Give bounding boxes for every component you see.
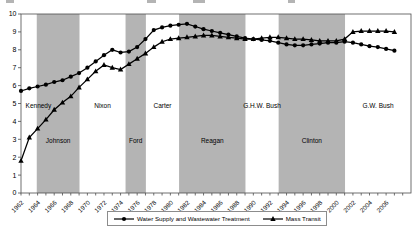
legend-label-water: Water Supply and Wastewater Treatment — [137, 215, 250, 222]
president-label-clinton: Clinton — [302, 137, 323, 144]
circle-marker — [168, 24, 172, 28]
circle-marker — [160, 25, 164, 29]
circle-marker — [309, 42, 313, 46]
circle-marker — [19, 89, 23, 93]
circle-marker — [135, 45, 139, 49]
triangle-marker — [151, 44, 156, 49]
term-band-reagan — [179, 14, 245, 193]
president-label-kennedy: Kennedy — [26, 102, 52, 110]
legend-item-water: Water Supply and Wastewater Treatment — [113, 215, 250, 223]
circle-marker — [376, 45, 380, 49]
y-tick-label: 2 — [13, 154, 17, 161]
circle-marker — [301, 43, 305, 47]
triangle-marker — [101, 62, 106, 67]
y-tick-label: 5 — [13, 100, 17, 107]
legend-label-mass-transit: Mass Transit — [286, 215, 321, 222]
x-tick-label: 1972 — [93, 198, 108, 213]
x-tick-label: 2006 — [375, 198, 390, 213]
x-tick-label: 2002 — [342, 198, 357, 213]
y-tick-label: 4 — [13, 118, 17, 125]
line-chart: 0123456789101962196419661968197019721974… — [0, 0, 415, 231]
circle-marker — [85, 66, 89, 70]
president-label-g-h-w-bush: G.H.W. Bush — [243, 102, 281, 109]
circle-marker — [384, 47, 388, 51]
x-tick-label: 1970 — [76, 198, 91, 213]
circle-marker — [69, 75, 73, 79]
circle-marker — [110, 48, 114, 52]
y-tick-label: 1 — [13, 172, 17, 179]
y-tick-label: 3 — [13, 136, 17, 143]
circle-marker — [293, 43, 297, 47]
president-label-nixon: Nixon — [94, 102, 111, 109]
circle-marker — [127, 49, 131, 53]
water-supply-series-marker-icon — [113, 215, 135, 223]
x-tick-label: 1962 — [10, 198, 25, 213]
circle-marker — [77, 71, 81, 75]
circle-marker — [177, 23, 181, 27]
circle-marker — [152, 28, 156, 32]
x-tick-label: 1966 — [43, 198, 58, 213]
circle-marker — [284, 42, 288, 46]
president-label-ford: Ford — [129, 137, 143, 144]
circle-marker — [351, 41, 355, 45]
y-tick-label: 9 — [13, 28, 17, 35]
legend: Water Supply and Wastewater Treatment Ma… — [107, 211, 327, 226]
circle-marker — [94, 59, 98, 63]
circle-marker — [276, 41, 280, 45]
circle-marker — [268, 39, 272, 43]
president-label-reagan: Reagan — [201, 137, 224, 145]
circle-marker — [359, 42, 363, 46]
y-tick-label: 8 — [13, 46, 17, 53]
y-tick-label: 0 — [13, 189, 17, 196]
triangle-marker — [18, 158, 23, 163]
circle-marker — [143, 37, 147, 41]
circle-marker — [185, 22, 189, 26]
mass-transit-series-marker-icon — [262, 215, 284, 223]
circle-marker — [27, 86, 31, 90]
circle-marker — [392, 49, 396, 53]
x-tick-label: 1964 — [26, 198, 41, 213]
circle-marker — [52, 80, 56, 84]
x-tick-label: 1968 — [60, 198, 75, 213]
circle-marker — [44, 83, 48, 87]
legend-item-mass-transit: Mass Transit — [262, 215, 321, 223]
president-label-g-w-bush: G.W. Bush — [362, 102, 393, 109]
circle-marker — [102, 53, 106, 57]
circle-marker — [118, 50, 122, 54]
x-tick-label: 2004 — [358, 198, 373, 213]
circle-marker — [367, 44, 371, 48]
y-tick-label: 7 — [13, 64, 17, 71]
x-tick-label: 2000 — [325, 198, 340, 213]
circle-marker — [210, 29, 214, 33]
circle-marker — [201, 27, 205, 31]
circle-marker — [60, 78, 64, 82]
circle-marker — [122, 216, 126, 220]
president-label-carter: Carter — [153, 102, 172, 109]
circle-marker — [35, 84, 39, 88]
chart-screenshot: 0123456789101962196419661968197019721974… — [0, 0, 415, 231]
y-tick-label: 6 — [13, 82, 17, 89]
y-tick-label: 10 — [9, 10, 17, 17]
president-label-johnson: Johnson — [46, 137, 71, 144]
circle-marker — [193, 24, 197, 28]
